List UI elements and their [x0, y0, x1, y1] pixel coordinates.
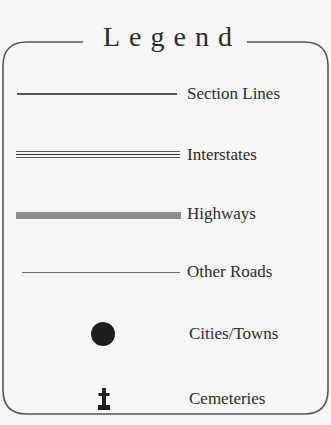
legend-label: Interstates	[187, 145, 257, 165]
legend-label: Cemeteries	[189, 389, 265, 409]
legend-title: Legend	[94, 20, 236, 54]
cemetery-cross-icon	[96, 386, 112, 412]
other-road-line-symbol-icon	[22, 272, 180, 273]
interstate-line-symbol-icon	[16, 151, 180, 158]
legend-label: Other Roads	[187, 262, 272, 282]
city-dot-icon	[91, 322, 115, 346]
legend-label: Section Lines	[187, 84, 280, 104]
legend-label: Cities/Towns	[189, 324, 278, 344]
legend-label: Highways	[187, 204, 256, 224]
highway-line-symbol-icon	[16, 212, 181, 219]
section-line-symbol-icon	[17, 93, 177, 95]
